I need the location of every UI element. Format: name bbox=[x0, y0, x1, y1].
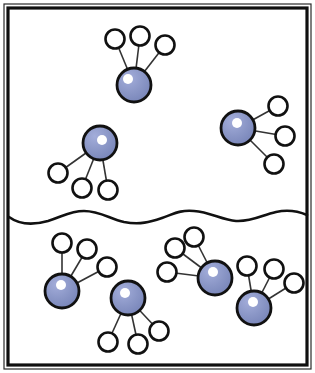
molecular-diagram bbox=[0, 0, 315, 373]
central-atom bbox=[111, 281, 145, 315]
specular-highlight bbox=[232, 118, 242, 128]
satellite-atom bbox=[106, 30, 125, 49]
central-atom bbox=[237, 291, 271, 325]
central-atom bbox=[198, 261, 232, 295]
satellite-atom bbox=[49, 164, 68, 183]
satellite-atom bbox=[99, 181, 118, 200]
satellite-atom bbox=[129, 335, 148, 354]
central-atom bbox=[221, 111, 255, 145]
specular-highlight bbox=[123, 74, 133, 84]
satellite-atom bbox=[98, 258, 117, 277]
satellite-atom bbox=[156, 36, 175, 55]
satellite-atom bbox=[276, 127, 295, 146]
satellite-atom bbox=[269, 97, 288, 116]
satellite-atom bbox=[265, 260, 284, 279]
figure-root bbox=[0, 0, 315, 373]
specular-highlight bbox=[56, 280, 66, 290]
satellite-atom bbox=[99, 333, 118, 352]
specular-highlight bbox=[208, 267, 218, 277]
satellite-atom bbox=[285, 274, 304, 293]
satellite-atom bbox=[185, 228, 204, 247]
specular-highlight bbox=[97, 135, 107, 145]
satellite-atom bbox=[78, 240, 97, 259]
specular-highlight bbox=[248, 297, 258, 307]
central-atom bbox=[117, 68, 151, 102]
specular-highlight bbox=[120, 288, 130, 298]
satellite-atom bbox=[166, 239, 185, 258]
satellite-atom bbox=[265, 155, 284, 174]
satellite-atom bbox=[53, 234, 72, 253]
satellite-atom bbox=[73, 179, 92, 198]
satellite-atom bbox=[158, 263, 177, 282]
satellite-atom bbox=[150, 322, 169, 341]
satellite-atom bbox=[238, 257, 257, 276]
satellite-atom bbox=[131, 27, 150, 46]
central-atom bbox=[45, 274, 79, 308]
